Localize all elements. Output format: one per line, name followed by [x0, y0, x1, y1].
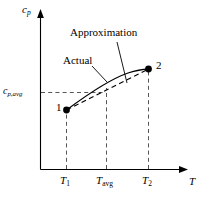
guide-lines-group	[41, 71, 149, 169]
y-tick-label-subscript: p,avg	[7, 90, 22, 97]
leader-line-actual	[92, 66, 107, 82]
point-label-2: 2	[156, 60, 162, 71]
y-tick-label-cpavg: cp,avg	[3, 86, 22, 98]
x-axis-label-symbol: T	[189, 175, 195, 187]
point-marker-2	[145, 66, 152, 73]
x-tick-label-tavg: Tavg	[96, 175, 113, 188]
x-tick-label-t2-subscript: 2	[148, 179, 152, 188]
y-axis-arrow-icon	[37, 9, 44, 18]
annotation-approximation: Approximation	[70, 27, 137, 38]
annotation-actual: Actual	[63, 55, 92, 66]
x-tick-label-t1-subscript: 1	[66, 179, 70, 188]
y-axis-label: cp	[22, 4, 31, 17]
x-axis-label: T	[189, 176, 195, 187]
approximation-line	[67, 69, 149, 110]
cp-vs-temperature-diagram: cp T cp,avg T1 Tavg T2 1 2 Approximation…	[0, 0, 203, 203]
x-tick-label-t2: T2	[142, 175, 152, 188]
x-tick-label-tavg-subscript: avg	[102, 179, 113, 188]
y-axis-label-subscript: p	[27, 8, 31, 17]
point-marker-1	[63, 107, 70, 114]
x-axis-arrow-icon	[179, 166, 188, 173]
point-label-1: 1	[56, 102, 62, 113]
leader-lines-group	[92, 42, 127, 83]
x-tick-label-t1: T1	[60, 175, 70, 188]
